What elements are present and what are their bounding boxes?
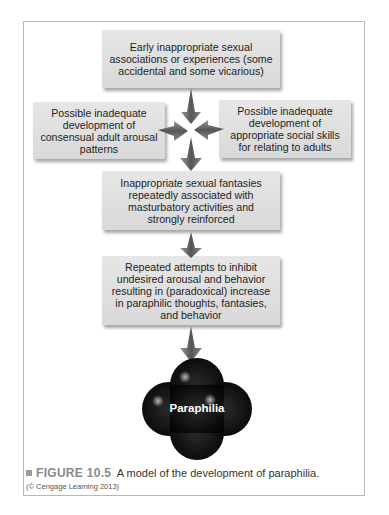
figure-caption: FIGURE 10.5 A model of the development o…: [26, 466, 319, 480]
figure-credit: (© Cengage Learning 2013): [26, 482, 119, 491]
box-adult-arousal-text: Possible inadequate development of conse…: [39, 107, 159, 155]
box-fantasies-text: Inappropriate sexual fantasies repeatedl…: [108, 177, 274, 225]
figure-number: FIGURE 10.5: [36, 466, 111, 480]
caption-text: A model of the development of paraphilia…: [117, 467, 319, 479]
box-inhibit-attempts: Repeated attempts to inhibit undesired a…: [102, 256, 280, 325]
box-social-skills: Possible inadequate development of appro…: [219, 100, 351, 158]
box-inhibit-attempts-text: Repeated attempts to inhibit undesired a…: [108, 261, 274, 321]
box-social-skills-text: Possible inadequate development of appro…: [225, 105, 345, 153]
box-adult-arousal: Possible inadequate development of conse…: [33, 102, 165, 159]
box-fantasies: Inappropriate sexual fantasies repeatedl…: [102, 171, 280, 230]
caption-square-icon: [26, 470, 32, 476]
box-early-experiences: Early inappropriate sexual associations …: [102, 30, 280, 88]
paraphilia-label: Paraphilia: [138, 402, 256, 414]
box-early-experiences-text: Early inappropriate sexual associations …: [108, 41, 274, 77]
